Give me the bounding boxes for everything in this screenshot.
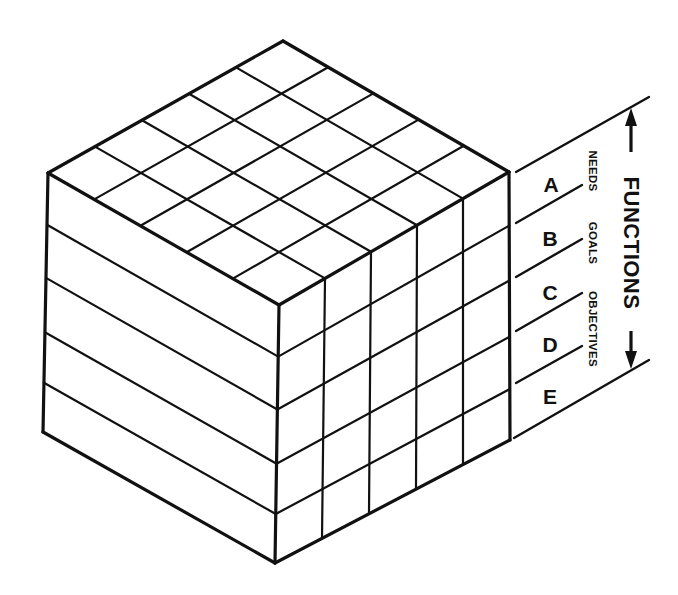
level-letter-a: A (543, 173, 558, 196)
cube-top-face-grid (94, 67, 464, 278)
left-layer-line (46, 278, 277, 410)
cube-edge (48, 173, 279, 305)
top-grid-line (189, 94, 417, 225)
level-name-objectives: OBJECTIVES (587, 291, 599, 367)
level-letter-c: C (542, 281, 557, 304)
level-letter-e: E (543, 385, 557, 408)
top-grid-line (187, 120, 419, 253)
top-grid-line (236, 67, 463, 198)
functions-cube-diagram: A B C D E NEEDS GOALS OBJECTIVES FUNCTIO… (0, 0, 678, 595)
cube-right-face-grid (276, 199, 510, 539)
cube-outline (43, 41, 510, 563)
right-layer-line (276, 389, 510, 514)
right-column-line (416, 225, 417, 489)
cube-edge (275, 440, 510, 563)
left-layer-line (44, 383, 276, 514)
top-grid-line (94, 67, 328, 199)
cube-edge (279, 172, 509, 305)
cube-edge (43, 173, 48, 432)
right-layer-line (278, 226, 509, 357)
left-layer-line (47, 225, 278, 357)
right-column-line (369, 252, 371, 514)
cube-edge (43, 432, 275, 563)
level-letter-d: D (542, 333, 557, 356)
level-letter-b: B (542, 227, 557, 250)
level-name-goals: GOALS (587, 222, 599, 264)
cube-edge (509, 172, 510, 440)
right-layer-line (277, 281, 509, 410)
functions-top-boundary-line (516, 97, 649, 172)
level-name-needs: NEEDS (587, 150, 599, 191)
top-grid-line (95, 147, 325, 279)
cube-edge (283, 41, 509, 172)
cube (43, 41, 510, 563)
top-grid-line (233, 146, 464, 279)
cube-left-face-layers (44, 225, 278, 514)
right-layer-line (277, 337, 510, 464)
top-grid-line (140, 93, 373, 225)
cube-edge (48, 41, 283, 173)
cube-edge (275, 305, 279, 563)
right-column-line (322, 278, 325, 538)
arrow-down-icon (625, 351, 637, 369)
left-layer-line (45, 332, 277, 463)
functions-dimension-arrow: FUNCTIONS (619, 108, 644, 369)
functions-title: FUNCTIONS (619, 177, 644, 310)
top-grid-line (142, 120, 371, 252)
